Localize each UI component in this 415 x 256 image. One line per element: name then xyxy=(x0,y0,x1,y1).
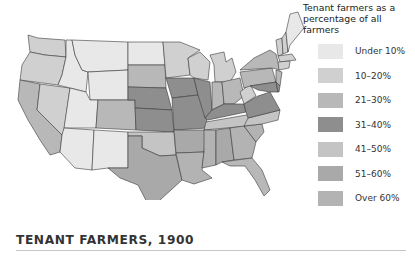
state-wi xyxy=(188,52,210,80)
legend-swatch-under-10 xyxy=(318,44,343,59)
legend-swatch-51-60 xyxy=(318,166,343,181)
legend-item: 21–30% xyxy=(303,88,415,113)
legend-label: 41–50% xyxy=(355,144,391,154)
legend-item: Over 60% xyxy=(303,186,415,211)
state-nm xyxy=(92,130,128,170)
legend-label: Under 10% xyxy=(355,46,405,56)
us-states-map xyxy=(0,0,330,200)
state-az xyxy=(60,128,94,170)
legend-swatch-31-40 xyxy=(318,117,343,132)
legend-label: Over 60% xyxy=(355,193,400,203)
legend-label: 31–40% xyxy=(355,120,391,130)
legend-item: Under 10% xyxy=(303,39,415,64)
state-mt xyxy=(72,40,128,72)
state-co xyxy=(96,100,136,130)
legend-item: 31–40% xyxy=(303,113,415,138)
state-ms xyxy=(202,130,216,168)
state-sd xyxy=(128,65,166,88)
legend-item: 10–20% xyxy=(303,64,415,89)
state-ia xyxy=(166,78,198,98)
state-nd xyxy=(128,42,165,65)
legend-title: Tenant farmers as a percentage of all fa… xyxy=(303,2,415,35)
legend-label: 51–60% xyxy=(355,169,391,179)
state-fl xyxy=(222,158,270,196)
state-ar xyxy=(174,130,206,153)
legend-swatch-41-50 xyxy=(318,142,343,157)
state-mi xyxy=(210,52,236,82)
state-ny xyxy=(240,50,280,70)
state-me xyxy=(286,12,304,52)
legend: Tenant farmers as a percentage of all fa… xyxy=(303,2,415,211)
legend-swatch-over-60 xyxy=(318,191,343,206)
legend-title-line1: Tenant farmers as a xyxy=(303,2,415,13)
legend-swatch-10-20 xyxy=(318,68,343,83)
map-title: TENANT FARMERS, 1900 xyxy=(16,233,194,247)
legend-label: 10–20% xyxy=(355,71,391,81)
state-ct xyxy=(278,61,290,70)
state-ks xyxy=(135,108,174,132)
legend-item: 51–60% xyxy=(303,162,415,187)
legend-item: 41–50% xyxy=(303,137,415,162)
state-oh xyxy=(222,78,244,104)
legend-label: 21–30% xyxy=(355,95,391,105)
state-wy xyxy=(88,70,128,100)
legend-title-line2: percentage of all farmers xyxy=(303,13,415,35)
state-or xyxy=(20,52,66,85)
divider xyxy=(16,250,406,251)
legend-swatch-21-30 xyxy=(318,93,343,108)
